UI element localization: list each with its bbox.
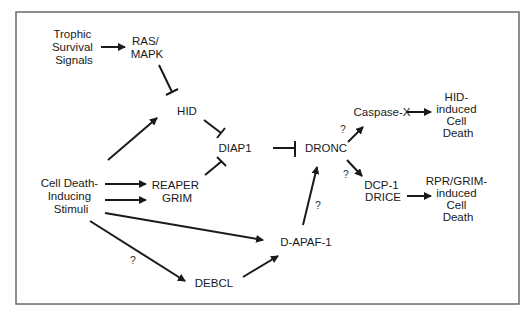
inhibit-rasmapk-to-hid [159, 65, 178, 95]
inhibit-diap1-to-dronc [273, 141, 295, 157]
node-diap1: DIAP1 [218, 142, 251, 154]
node-caspase-x: Caspase-X [354, 106, 411, 118]
arrow-dronc-to-caspasex [348, 127, 363, 142]
pathway-diagram: Trophic Survival Signals RAS/ MAPK HID D… [0, 0, 529, 317]
node-reaper-grim: REAPER GRIM [152, 179, 203, 204]
node-dronc: DRONC [305, 142, 347, 154]
arrow-celldeath-to-hid [108, 118, 157, 160]
inhibit-reapergrim-to-diap1 [205, 157, 226, 175]
arrow-dapaf1-to-dronc [303, 167, 317, 225]
node-ras-mapk: RAS/ MAPK [131, 35, 164, 60]
question-mark-debcl: ? [130, 254, 136, 266]
node-dcp1-drice: DCP-1 DRICE [364, 179, 402, 203]
node-hid-induced-cell-death: HID- induced Cell Death [436, 91, 480, 139]
arrow-celldeath-to-debcl [90, 221, 185, 281]
node-cell-death-inducing-stimuli: Cell Death- Inducing Stimuli [41, 177, 102, 215]
node-d-apaf-1: D-APAF-1 [280, 236, 332, 248]
arrow-dronc-to-dcp1 [347, 160, 362, 176]
arrow-celldeath-to-dapaf1 [105, 213, 263, 240]
node-rpr-grim-induced-cell-death: RPR/GRIM- induced Cell Death [426, 175, 491, 223]
arrow-debcl-to-dapaf1 [243, 256, 278, 277]
node-trophic-survival-signals: Trophic Survival Signals [52, 28, 96, 66]
inhibit-hid-to-diap1 [204, 120, 225, 138]
question-mark-dronc-dcp1: ? [343, 168, 349, 180]
node-debcl: DEBCL [195, 277, 234, 289]
question-mark-dapaf-dronc: ? [315, 199, 321, 211]
node-hid: HID [177, 105, 197, 117]
question-mark-dronc-caspasex: ? [340, 123, 346, 135]
